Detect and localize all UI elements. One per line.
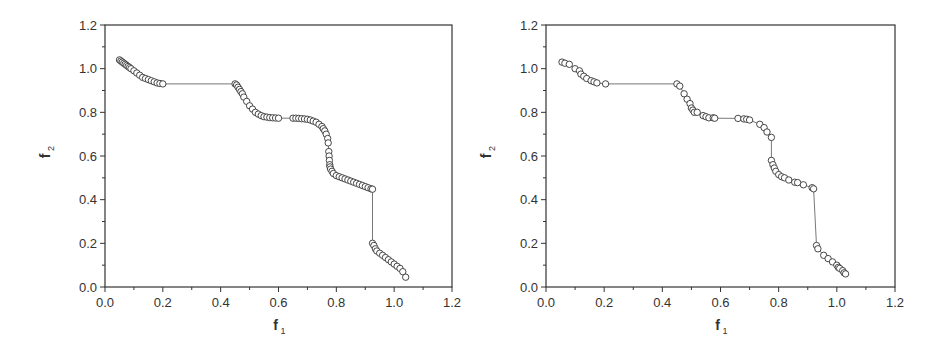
x-tick-label: 1.0	[828, 295, 846, 310]
data-point-marker	[594, 80, 600, 86]
x-tick-label: 0.0	[96, 295, 114, 310]
x-tick-label: 0.6	[269, 295, 287, 310]
x-tick-label: 0.4	[653, 295, 671, 310]
series-line	[562, 62, 846, 274]
x-tick-label: 1.2	[443, 295, 461, 310]
x-axis-label: f	[715, 317, 720, 333]
x-axis: 0.00.20.40.60.81.01.2	[96, 287, 461, 310]
x-axis-label-subscript: 1	[723, 326, 728, 336]
y-axis-label: f	[478, 153, 494, 158]
y-tick-label: 0.6	[520, 149, 538, 164]
y-tick-label: 0.4	[79, 192, 97, 207]
data-point-marker	[764, 129, 770, 135]
y-axis: 0.00.20.40.60.81.01.2	[79, 18, 105, 295]
y-tick-label: 0.2	[79, 236, 97, 251]
data-point-marker	[815, 246, 821, 252]
y-tick-label: 1.2	[520, 18, 538, 33]
data-point-marker	[677, 83, 683, 89]
plot-frame	[105, 25, 452, 287]
data-point-marker	[566, 61, 572, 67]
data-point-marker	[768, 134, 774, 140]
x-tick-label: 1.2	[886, 295, 904, 310]
y-tick-label: 0.2	[520, 236, 538, 251]
y-axis-label-subscript: 2	[487, 146, 497, 151]
x-axis-label: f	[273, 317, 278, 333]
chart-panel-right: 0.00.20.40.60.81.01.20.00.20.40.60.81.01…	[473, 0, 946, 353]
x-tick-label: 0.2	[154, 295, 172, 310]
x-axis-label-subscript: 1	[281, 326, 286, 336]
y-tick-label: 0.0	[520, 280, 538, 295]
data-point-marker	[275, 115, 281, 121]
data-point-marker	[786, 177, 792, 183]
y-tick-label: 1.2	[79, 18, 97, 33]
y-axis: 0.00.20.40.60.81.01.2	[520, 18, 546, 295]
series-markers	[116, 57, 409, 281]
series-line	[120, 60, 406, 277]
y-tick-label: 1.0	[520, 61, 538, 76]
data-point-marker	[800, 182, 806, 188]
data-point-marker	[842, 271, 848, 277]
y-tick-label: 1.0	[79, 61, 97, 76]
data-point-marker	[810, 186, 816, 192]
data-point-marker	[602, 81, 608, 87]
x-tick-label: 1.0	[385, 295, 403, 310]
chart-left-plot: 0.00.20.40.60.81.01.20.00.20.40.60.81.01…	[0, 0, 473, 353]
chart-panel-left: 0.00.20.40.60.81.01.20.00.20.40.60.81.01…	[0, 0, 473, 353]
plot-frame	[546, 25, 895, 287]
y-tick-label: 0.0	[79, 280, 97, 295]
y-tick-label: 0.8	[520, 105, 538, 120]
x-axis: 0.00.20.40.60.81.01.2	[537, 287, 904, 310]
x-tick-label: 0.8	[327, 295, 345, 310]
data-point-marker	[403, 274, 409, 280]
data-point-marker	[369, 186, 375, 192]
x-tick-label: 0.8	[770, 295, 788, 310]
data-point-marker	[325, 140, 331, 146]
y-axis-label: f	[37, 153, 53, 158]
x-tick-label: 0.0	[537, 295, 555, 310]
y-tick-label: 0.6	[79, 149, 97, 164]
y-tick-label: 0.4	[520, 192, 538, 207]
chart-right-plot: 0.00.20.40.60.81.01.20.00.20.40.60.81.01…	[473, 0, 946, 353]
data-point-marker	[694, 109, 700, 115]
y-tick-label: 0.8	[79, 105, 97, 120]
x-tick-label: 0.4	[212, 295, 230, 310]
data-point-marker	[746, 117, 752, 123]
x-tick-label: 0.2	[595, 295, 613, 310]
data-point-marker	[160, 81, 166, 87]
data-point-marker	[712, 115, 718, 121]
x-tick-label: 0.6	[711, 295, 729, 310]
series-markers	[559, 59, 849, 277]
y-axis-label-subscript: 2	[46, 146, 56, 151]
